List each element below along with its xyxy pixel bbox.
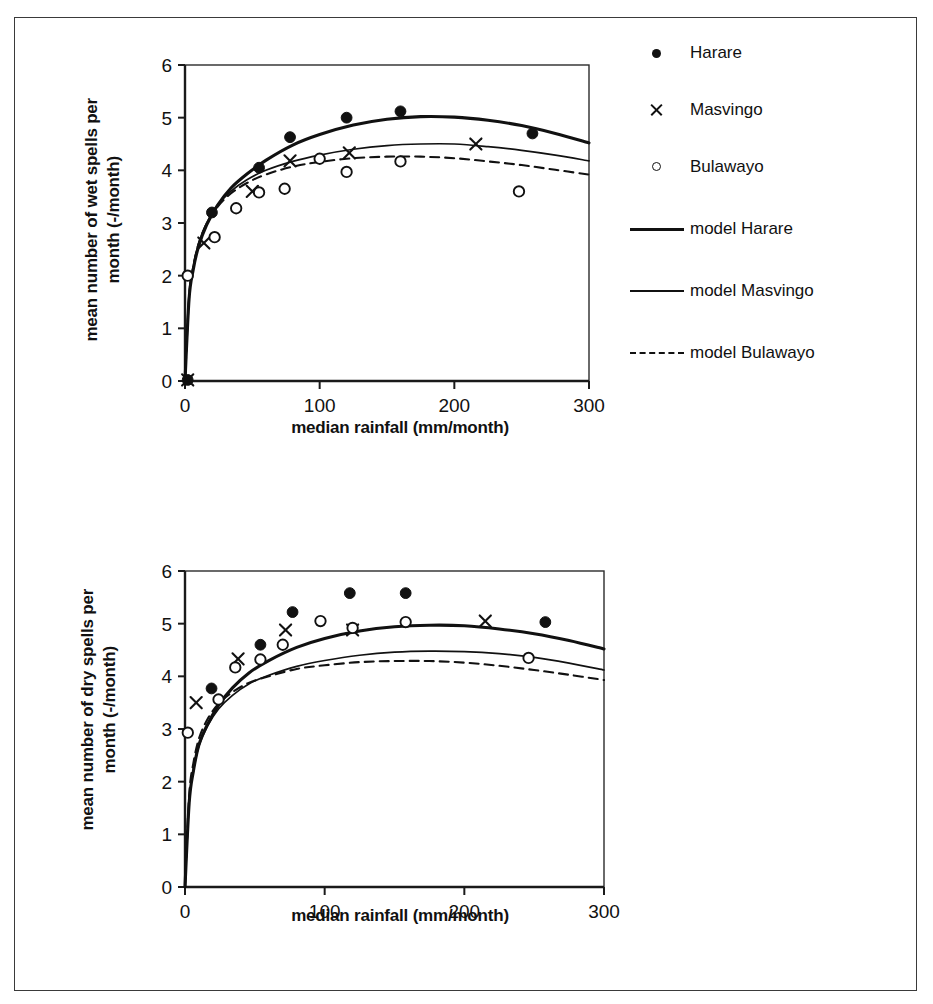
x-axis-title-wet: median rainfall (mm/month) [155,418,645,438]
y-tick-label: 3 [161,719,172,740]
legend-item-harare[interactable]: Harare [630,42,742,64]
x-tick-label: 0 [180,395,191,416]
legend-item-bulawayo[interactable]: Bulawayo [630,156,764,178]
data-series-bulawayo [182,154,524,281]
y-tick-label: 5 [161,108,172,129]
model-curve-model-harare [185,625,604,887]
model-curve-model-masvingo [185,651,604,887]
data-series-masvingo [182,138,481,385]
chart-legend: Harare Masvingo Bulawayo model Harare mo… [630,28,910,408]
y-tick-label: 5 [161,614,172,635]
figure-frame: 01234560100200300 median rainfall (mm/mo… [14,17,917,991]
x-tick-label: 200 [438,395,470,416]
y-tick-label: 6 [161,561,172,582]
y-tick-label: 0 [161,371,172,392]
legend-item-model-bulawayo[interactable]: model Bulawayo [630,342,815,364]
legend-label-model-bulawayo: model Bulawayo [690,343,815,363]
legend-label-harare: Harare [690,43,742,63]
x-axis-title-dry: median rainfall (mm/month) [155,906,645,926]
y-tick-label: 2 [161,772,172,793]
filled-circle-icon [630,43,686,63]
legend-label-masvingo: Masvingo [690,100,763,120]
y-tick-label: 4 [161,160,172,181]
y-tick-label: 1 [161,318,172,339]
y-axis-title-dry: mean number of dry spells per month (-/m… [77,560,121,860]
y-tick-label: 1 [161,824,172,845]
y-tick-label: 4 [161,666,172,687]
open-circle-icon [630,157,686,177]
model-curve-model-bulawayo [185,661,604,887]
cross-marker-icon [630,100,686,120]
y-tick-label: 3 [161,213,172,234]
thick-solid-line-icon [630,219,686,239]
y-tick-label: 2 [161,266,172,287]
chart-panel-wet-spells: 01234560100200300 median rainfall (mm/mo… [15,18,918,498]
legend-item-masvingo[interactable]: Masvingo [630,99,763,121]
legend-label-model-harare: model Harare [690,219,793,239]
legend-item-model-harare[interactable]: model Harare [630,218,793,240]
y-tick-label: 0 [161,877,172,898]
model-curve-model-masvingo [185,144,589,381]
x-tick-label: 300 [573,395,605,416]
thin-solid-line-icon [630,281,686,301]
legend-item-model-masvingo[interactable]: model Masvingo [630,280,814,302]
dashed-line-icon [630,343,686,363]
x-tick-label: 100 [304,395,336,416]
y-axis-title-wet: mean number of wet spells per month (-/m… [81,70,125,370]
legend-label-bulawayo: Bulawayo [690,157,764,177]
model-curve-model-bulawayo [185,156,589,381]
chart-panel-dry-spells: 01234560100200300 median rainfall (mm/mo… [15,508,918,992]
y-tick-label: 6 [161,55,172,76]
legend-label-model-masvingo: model Masvingo [690,281,814,301]
data-series-harare [206,588,551,694]
